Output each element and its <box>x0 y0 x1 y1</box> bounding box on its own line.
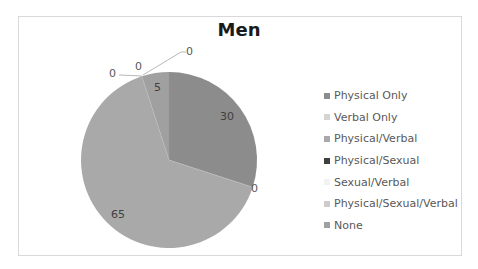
label-physical-only: 30 <box>220 110 234 123</box>
legend-label: Physical/Sexual <box>334 154 419 167</box>
leader-line <box>143 52 186 75</box>
label-physical-sexual: 0 <box>109 67 116 80</box>
label-physical-verbal: 65 <box>111 208 125 221</box>
legend-item-sexual-verbal: Sexual/Verbal <box>324 171 458 193</box>
legend-item-physical-only: Physical Only <box>324 85 458 107</box>
legend-label: Sexual/Verbal <box>334 176 409 189</box>
legend-item-physical-verbal: Physical/Verbal <box>324 128 458 150</box>
legend-swatch <box>324 136 330 142</box>
legend-label: Verbal Only <box>334 111 397 124</box>
label-none: 5 <box>154 81 161 94</box>
legend-label: Physical/Sexual/Verbal <box>334 197 458 210</box>
legend-swatch <box>324 93 330 99</box>
legend-label: Physical Only <box>334 89 407 102</box>
legend-swatch <box>324 158 330 164</box>
legend-label: Physical/Verbal <box>334 132 417 145</box>
chart-legend: Physical Only Verbal Only Physical/Verba… <box>324 85 458 236</box>
label-verbal-only: 0 <box>251 182 258 195</box>
legend-item-verbal-only: Verbal Only <box>324 107 458 129</box>
legend-swatch <box>324 201 330 207</box>
legend-swatch <box>324 114 330 120</box>
leader-line <box>119 75 142 76</box>
legend-swatch <box>324 179 330 185</box>
legend-label: None <box>334 219 363 232</box>
legend-item-none: None <box>324 215 458 237</box>
legend-swatch <box>324 222 330 228</box>
legend-item-physical-sexual: Physical/Sexual <box>324 150 458 172</box>
label-sexual-verbal: 0 <box>135 60 142 73</box>
legend-item-physical-sexual-verbal: Physical/Sexual/Verbal <box>324 193 458 215</box>
label-physical-sexual-verbal: 0 <box>186 45 193 58</box>
